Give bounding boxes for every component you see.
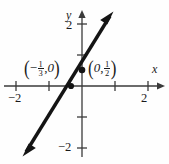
x-axis [4, 82, 165, 89]
comma-separator: , [100, 60, 103, 75]
paren-open-icon: ( [24, 59, 30, 79]
fraction-one-third: 13 [38, 60, 44, 79]
y-intercept-dot [79, 67, 86, 74]
coordinate-plane-svg [0, 0, 169, 164]
paren-open-icon: ( [88, 59, 94, 79]
y-axis [78, 10, 85, 157]
plotted-line [23, 12, 114, 157]
y-tick-label-neg2: −2 [58, 141, 71, 154]
x-tick-label-neg2: −2 [8, 92, 21, 105]
fraction-one-half: 12 [104, 60, 110, 79]
graph-figure: y x 2 −2 −2 2 (−13,0) (0,12) [0, 0, 169, 164]
y-intercept-annotation: (0,12) [88, 60, 116, 79]
paren-close-icon: ) [54, 59, 60, 79]
paren-close-icon: ) [111, 59, 117, 79]
x-axis-label: x [152, 63, 157, 75]
x-intercept-dot [68, 83, 74, 89]
x-intercept-annotation: (−13,0) [24, 60, 60, 79]
x-tick-label-2: 2 [141, 92, 147, 105]
fraction-minus: − [30, 60, 37, 75]
y-tick-label-2: 2 [66, 19, 72, 32]
